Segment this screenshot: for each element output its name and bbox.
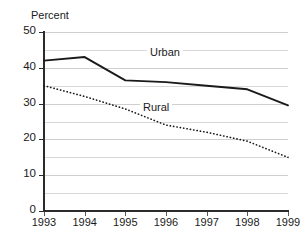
- gridline: [44, 157, 288, 158]
- chart-figure: Medicare Enrollment 1993-1999 Percent 01…: [0, 0, 300, 245]
- series-label-urban: Urban: [147, 46, 183, 58]
- y-tick-label: 10: [6, 167, 36, 179]
- y-tick: [39, 175, 44, 176]
- y-tick-label: 50: [6, 24, 36, 36]
- y-tick: [39, 32, 44, 33]
- y-tick-label: 20: [6, 131, 36, 143]
- y-tick: [39, 139, 44, 140]
- series-label-rural: Rural: [140, 101, 172, 113]
- x-tick-label: 1997: [185, 216, 229, 228]
- y-tick: [39, 104, 44, 105]
- y-axis-unit-label: Percent: [31, 9, 69, 21]
- x-tick-label: 1993: [22, 216, 66, 228]
- y-axis-line: [43, 31, 45, 212]
- y-tick-label: 30: [6, 96, 36, 108]
- y-tick-label: 40: [6, 60, 36, 72]
- x-tick-label: 1996: [144, 216, 188, 228]
- gridline: [44, 68, 288, 69]
- y-tick-label: 0: [6, 203, 36, 215]
- gridline: [44, 175, 288, 176]
- y-tick: [39, 68, 44, 69]
- gridline: [44, 193, 288, 194]
- gridline: [44, 139, 288, 140]
- x-tick-label: 1994: [63, 216, 107, 228]
- gridline: [44, 122, 288, 123]
- x-tick-label: 1995: [103, 216, 147, 228]
- plot-grid: [44, 32, 288, 211]
- gridline: [44, 86, 288, 87]
- gridline: [44, 32, 288, 33]
- chart-title: Medicare Enrollment 1993-1999: [11, 0, 177, 1]
- x-tick-label: 1999: [266, 216, 300, 228]
- x-tick-label: 1998: [225, 216, 269, 228]
